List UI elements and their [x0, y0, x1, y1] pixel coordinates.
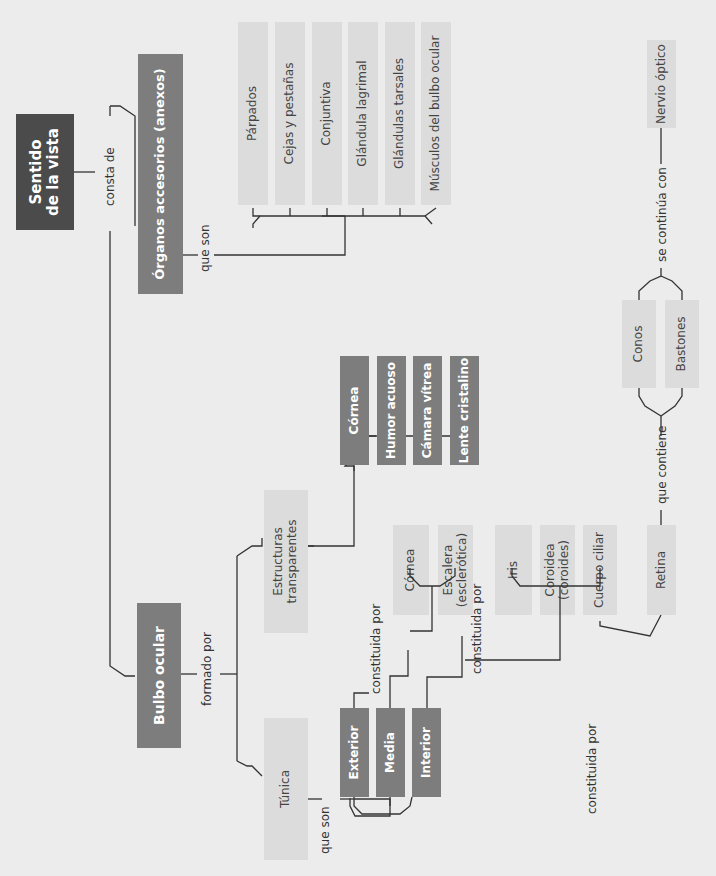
concept-map: Sentido de la vista consta de Órganos ac… — [0, 0, 716, 876]
retina-connector-lines — [0, 0, 716, 876]
